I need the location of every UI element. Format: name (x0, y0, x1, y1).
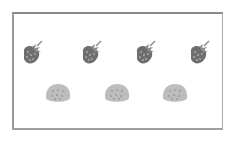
bun-icon (44, 82, 72, 104)
strawberry-icon (21, 40, 45, 66)
strawberry-icon (188, 40, 212, 66)
strawberry-icon (80, 40, 104, 66)
bun-icon (103, 82, 131, 104)
bun-icon (161, 82, 189, 104)
picture-frame (12, 12, 223, 130)
strawberry-icon (134, 40, 158, 66)
